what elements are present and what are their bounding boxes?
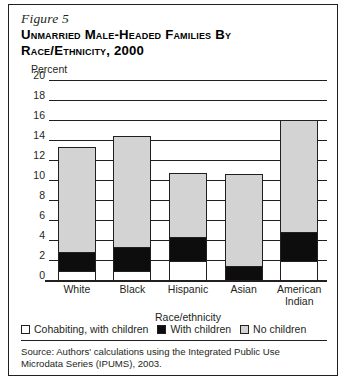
- bar-segment-no[interactable]: [169, 173, 207, 238]
- x-axis-label-asian: Asian: [213, 283, 275, 295]
- x-axis-label-white: White: [46, 283, 108, 295]
- legend-label: With children: [170, 323, 231, 335]
- source-divider: [21, 340, 327, 341]
- x-axis-label-american-indian: AmericanIndian: [268, 283, 330, 307]
- bar-segment-with[interactable]: [58, 252, 96, 272]
- bar-segment-cohab[interactable]: [169, 261, 207, 281]
- legend-label: Cohabiting, with children: [34, 323, 148, 335]
- figure-title-line-2: Race/Ethnicity, 2000: [21, 43, 326, 59]
- bar-segment-no[interactable]: [280, 120, 318, 233]
- legend-item[interactable]: No children: [240, 323, 306, 335]
- y-axis-tick-label: 10: [21, 169, 45, 181]
- y-axis-tick-label: 0: [21, 269, 45, 281]
- figure-container: Figure 5 Unmarried Male-Headed Families …: [0, 0, 346, 380]
- y-axis-tick-label: 2: [21, 249, 45, 261]
- chart-legend: Cohabiting, with childrenWith childrenNo…: [21, 323, 327, 335]
- bar-american-indian[interactable]: [280, 120, 318, 280]
- legend-swatch-cohab: [21, 325, 30, 334]
- y-axis-tick-label: 4: [21, 229, 45, 241]
- bar-hispanic[interactable]: [169, 173, 207, 280]
- bar-segment-cohab[interactable]: [280, 261, 318, 281]
- figure-frame: Figure 5 Unmarried Male-Headed Families …: [8, 4, 338, 376]
- y-axis-tick-label: 6: [21, 209, 45, 221]
- plot-area: Percent 02468101214161820 WhiteBlackHisp…: [21, 63, 327, 309]
- bar-segment-with[interactable]: [225, 266, 263, 281]
- legend-label: No children: [253, 323, 306, 335]
- y-axis-tick-label: 14: [21, 129, 45, 141]
- x-axis-title: Race/ethnicity: [49, 311, 327, 323]
- bar-segment-cohab[interactable]: [113, 271, 151, 281]
- bar-segment-with[interactable]: [113, 247, 151, 272]
- x-axis-label-hispanic: Hispanic: [157, 283, 219, 295]
- y-axis-tick-label: 8: [21, 189, 45, 201]
- bar-segment-no[interactable]: [113, 136, 151, 248]
- y-axis-tick-label: 20: [21, 69, 45, 81]
- bar-asian[interactable]: [225, 174, 263, 280]
- bar-segment-with[interactable]: [169, 237, 207, 262]
- legend-item[interactable]: With children: [157, 323, 231, 335]
- bar-segment-no[interactable]: [225, 174, 263, 267]
- bar-white[interactable]: [58, 147, 96, 280]
- figure-number: Figure 5: [21, 11, 69, 27]
- bar-segment-with[interactable]: [280, 232, 318, 262]
- x-axis-tick-labels: WhiteBlackHispanicAsianAmericanIndian: [49, 283, 327, 313]
- figure-title: Unmarried Male-Headed Families by Race/E…: [21, 27, 326, 58]
- bars-layer: [49, 80, 327, 280]
- x-axis-label-black: Black: [101, 283, 163, 295]
- bar-segment-no[interactable]: [58, 147, 96, 253]
- legend-item[interactable]: Cohabiting, with children: [21, 323, 148, 335]
- bar-segment-cohab[interactable]: [58, 271, 96, 281]
- legend-swatch-no: [240, 325, 249, 334]
- figure-title-line-1: Unmarried Male-Headed Families by: [21, 27, 326, 43]
- y-axis-tick-label: 12: [21, 149, 45, 161]
- y-axis-tick-label: 16: [21, 109, 45, 121]
- legend-swatch-with: [157, 325, 166, 334]
- y-axis-tick-label: 18: [21, 89, 45, 101]
- source-note: Source: Authors' calculations using the …: [21, 346, 321, 369]
- bar-black[interactable]: [113, 136, 151, 280]
